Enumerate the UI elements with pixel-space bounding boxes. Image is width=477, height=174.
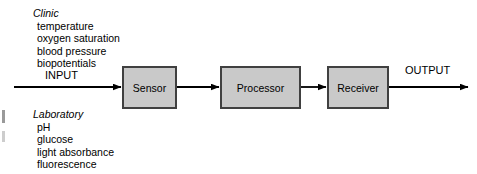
list-item: pH — [37, 121, 114, 134]
group-laboratory-list: pH glucose light absorbance fluorescence — [33, 121, 114, 171]
block-diagram: Clinic temperature oxygen saturation blo… — [0, 0, 477, 174]
node-processor-label: Processor — [237, 82, 284, 94]
list-item: blood pressure — [37, 45, 120, 58]
group-clinic-title: Clinic — [33, 7, 120, 20]
group-clinic: Clinic temperature oxygen saturation blo… — [33, 7, 120, 70]
input-label: INPUT — [45, 69, 78, 81]
list-item: glucose — [37, 133, 114, 146]
group-laboratory-title: Laboratory — [33, 108, 114, 121]
left-edge-artifact-upper — [2, 110, 5, 123]
list-item: light absorbance — [37, 146, 114, 159]
node-sensor-label: Sensor — [133, 82, 166, 94]
node-processor[interactable]: Processor — [220, 66, 301, 109]
group-clinic-list: temperature oxygen saturation blood pres… — [33, 20, 120, 70]
node-sensor[interactable]: Sensor — [122, 66, 177, 109]
list-item: fluorescence — [37, 158, 114, 171]
group-laboratory: Laboratory pH glucose light absorbance f… — [33, 108, 114, 171]
list-item: oxygen saturation — [37, 32, 120, 45]
list-item: temperature — [37, 20, 120, 33]
node-receiver-label: Receiver — [337, 82, 378, 94]
output-label: OUTPUT — [405, 64, 450, 76]
node-receiver[interactable]: Receiver — [327, 66, 389, 109]
left-edge-artifact-lower — [2, 131, 5, 142]
